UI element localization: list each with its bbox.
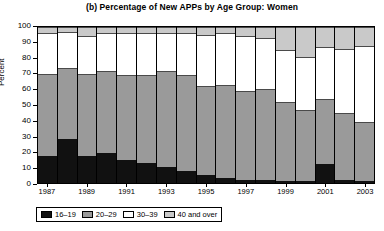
bar-1999[interactable] bbox=[276, 27, 296, 183]
bar-1998[interactable] bbox=[256, 27, 276, 183]
stacked-bars bbox=[38, 27, 374, 183]
x-axis-tick-mark bbox=[166, 184, 167, 187]
x-axis-tick-mark bbox=[246, 184, 247, 187]
x-axis-tick-mark bbox=[47, 184, 48, 187]
x-axis-tick-mark bbox=[365, 184, 366, 187]
bar-segment bbox=[38, 33, 57, 74]
bar-segment bbox=[296, 27, 315, 57]
bar-segment bbox=[38, 156, 57, 183]
bar-segment bbox=[256, 89, 275, 179]
bar-segment bbox=[216, 85, 235, 179]
x-axis: 198719891991199319951997199920012003 bbox=[37, 184, 375, 200]
bar-2002[interactable] bbox=[335, 27, 355, 183]
bar-segment bbox=[177, 33, 196, 75]
bar-segment bbox=[216, 178, 235, 183]
x-axis-tick-mark bbox=[126, 184, 127, 187]
bar-2000[interactable] bbox=[296, 27, 316, 183]
bar-segment bbox=[316, 164, 335, 183]
bar-segment bbox=[355, 46, 374, 122]
bar-segment bbox=[296, 181, 315, 183]
x-axis-tick-mark bbox=[286, 184, 287, 187]
plot-area bbox=[37, 26, 375, 184]
bar-segment bbox=[355, 181, 374, 183]
y-axis-tick-label: 40 bbox=[22, 116, 31, 125]
legend-swatch-icon bbox=[164, 211, 175, 218]
bar-segment bbox=[117, 75, 136, 159]
figure-panel-b: (b) Percentage of New APPs by Age Group:… bbox=[0, 0, 384, 231]
bar-1987[interactable] bbox=[38, 27, 58, 183]
bar-segment bbox=[38, 74, 57, 157]
bar-segment bbox=[137, 163, 156, 183]
bar-segment bbox=[236, 91, 255, 180]
bar-segment bbox=[137, 33, 156, 75]
bar-segment bbox=[236, 180, 255, 183]
bar-1989[interactable] bbox=[78, 27, 98, 183]
bar-segment bbox=[316, 27, 335, 47]
y-axis-tick-label: 0 bbox=[27, 179, 31, 188]
bar-segment bbox=[236, 36, 255, 91]
bar-segment bbox=[78, 27, 97, 36]
x-axis-tick-mark bbox=[87, 184, 88, 187]
bar-segment bbox=[157, 167, 176, 183]
y-axis-tick-label: 100 bbox=[18, 21, 31, 30]
bar-segment bbox=[78, 36, 97, 73]
bar-segment bbox=[117, 160, 136, 183]
bar-segment bbox=[58, 139, 77, 183]
bar-1993[interactable] bbox=[157, 27, 177, 183]
bar-segment bbox=[137, 75, 156, 162]
y-axis-tick-label: 70 bbox=[22, 68, 31, 77]
bar-segment bbox=[256, 27, 275, 38]
bar-segment bbox=[316, 99, 335, 165]
bar-segment bbox=[256, 38, 275, 89]
bar-1992[interactable] bbox=[137, 27, 157, 183]
bar-2003[interactable] bbox=[355, 27, 374, 183]
bar-segment bbox=[197, 86, 216, 175]
y-axis-tick-label: 10 bbox=[22, 163, 31, 172]
bar-segment bbox=[58, 68, 77, 140]
bar-segment bbox=[78, 74, 97, 157]
legend-item[interactable]: 30–39 bbox=[123, 211, 158, 219]
bar-segment bbox=[58, 32, 77, 68]
legend-swatch-icon bbox=[82, 211, 93, 218]
bar-2001[interactable] bbox=[316, 27, 336, 183]
bar-segment bbox=[117, 33, 136, 75]
bar-segment bbox=[177, 171, 196, 183]
bar-1990[interactable] bbox=[97, 27, 117, 183]
bar-segment bbox=[276, 181, 295, 183]
bar-segment bbox=[197, 35, 216, 86]
bar-1988[interactable] bbox=[58, 27, 78, 183]
bar-1994[interactable] bbox=[177, 27, 197, 183]
bar-1996[interactable] bbox=[216, 27, 236, 183]
bar-1991[interactable] bbox=[117, 27, 137, 183]
legend-item[interactable]: 40 and over bbox=[164, 211, 218, 219]
bar-segment bbox=[335, 180, 354, 183]
y-axis-tick-label: 30 bbox=[22, 132, 31, 141]
legend-label: 40 and over bbox=[178, 211, 218, 219]
y-axis-tick-label: 80 bbox=[22, 53, 31, 62]
legend-label: 16–19 bbox=[55, 211, 76, 219]
y-axis-tick-label: 20 bbox=[22, 147, 31, 156]
legend-label: 30–39 bbox=[137, 211, 158, 219]
bar-segment bbox=[335, 27, 354, 49]
bar-segment bbox=[216, 33, 235, 84]
legend-item[interactable]: 20–29 bbox=[82, 211, 117, 219]
bar-segment bbox=[157, 71, 176, 168]
bar-segment bbox=[276, 50, 295, 101]
y-axis-tick-label: 90 bbox=[22, 37, 31, 46]
chart-legend: 16–1920–2930–3940 and over bbox=[36, 207, 222, 222]
x-axis-tick-mark bbox=[206, 184, 207, 187]
bar-segment bbox=[316, 47, 335, 98]
bar-segment bbox=[97, 71, 116, 154]
legend-item[interactable]: 16–19 bbox=[41, 211, 76, 219]
bar-segment bbox=[97, 153, 116, 183]
bar-segment bbox=[177, 75, 196, 170]
bar-segment bbox=[335, 113, 354, 180]
bar-1995[interactable] bbox=[197, 27, 217, 183]
legend-swatch-icon bbox=[41, 211, 52, 218]
bar-segment bbox=[355, 27, 374, 46]
chart-title: (b) Percentage of New APPs by Age Group:… bbox=[0, 2, 384, 12]
y-axis-tick-label: 60 bbox=[22, 84, 31, 93]
bar-segment bbox=[296, 57, 315, 110]
legend-label: 20–29 bbox=[96, 211, 117, 219]
bar-1997[interactable] bbox=[236, 27, 256, 183]
